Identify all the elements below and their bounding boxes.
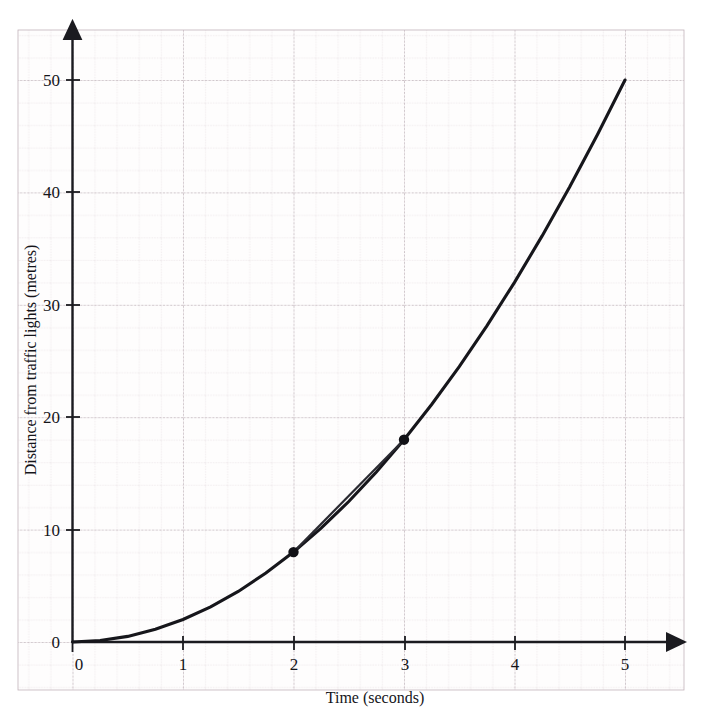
x-tick-label-3: 3 [401,655,410,674]
distance-time-chart: 0 1 2 3 4 5 0 10 20 30 40 50 Time (secon… [0,0,702,723]
x-tick-label-0: 0 [75,655,84,674]
x-tick-label-5: 5 [621,655,630,674]
y-tick-label-50: 50 [43,71,60,90]
x-axis-title: Time (seconds) [326,689,425,707]
graph-figure: 0 1 2 3 4 5 0 10 20 30 40 50 Time (secon… [0,0,702,723]
x-tick-label-2: 2 [290,655,299,674]
marker-point-q [399,434,409,444]
page-top-artifact [30,0,670,16]
marker-point-p [288,547,298,557]
x-tick-label-1: 1 [179,655,188,674]
y-tick-label-10: 10 [43,521,60,540]
x-tick-label-4: 4 [511,655,520,674]
y-axis-title: Distance from traffic lights (metres) [22,245,40,476]
y-tick-label-30: 30 [43,296,60,315]
y-tick-label-40: 40 [43,183,60,202]
y-tick-label-20: 20 [43,408,60,427]
y-origin-label: 0 [52,633,61,652]
grid-area [18,30,684,690]
